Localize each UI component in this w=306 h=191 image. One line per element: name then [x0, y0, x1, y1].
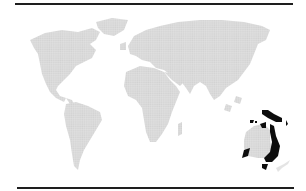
new-guinea [262, 110, 282, 122]
south-america [64, 102, 102, 170]
tasmania [262, 164, 268, 170]
world-map [0, 0, 306, 191]
bottom-rule [17, 187, 294, 189]
oceania-highlight [242, 110, 290, 172]
africa [124, 66, 186, 142]
new-zealand [276, 160, 290, 172]
north-america [30, 18, 128, 104]
